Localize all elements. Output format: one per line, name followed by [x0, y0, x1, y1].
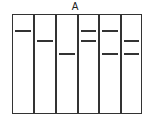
lane-divider — [55, 14, 57, 114]
gel-band — [124, 53, 139, 55]
gel-band — [102, 53, 118, 55]
gel-band — [15, 30, 31, 32]
gel-band — [59, 53, 75, 55]
gel-band — [124, 40, 139, 42]
lane-divider — [77, 14, 79, 114]
lane-divider — [33, 14, 35, 114]
diagram-title: A — [0, 1, 150, 13]
gel-band — [37, 40, 53, 42]
lane-divider — [120, 14, 122, 114]
gel-band — [81, 30, 96, 32]
gel-band — [102, 30, 118, 32]
lane-divider — [98, 14, 100, 114]
gel-band — [81, 40, 96, 42]
